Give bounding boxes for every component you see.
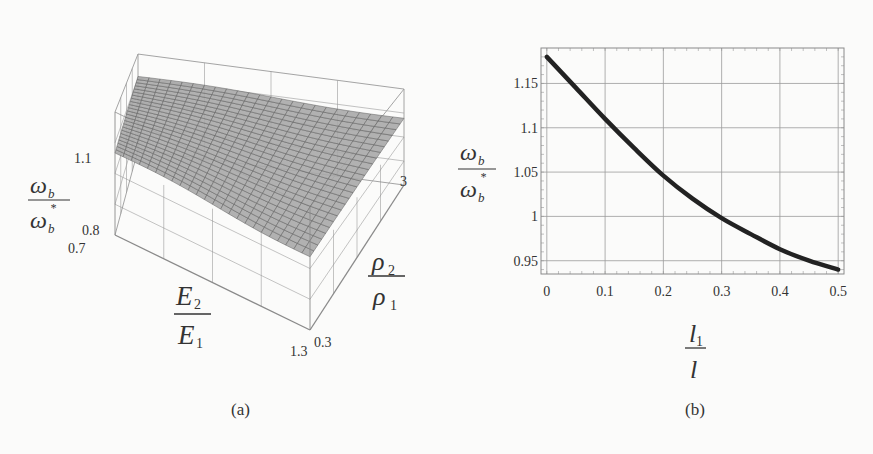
z-label-numerator-sub: b — [48, 186, 55, 201]
z-label-numerator: ω — [30, 172, 47, 198]
x-tick-label: 0.4 — [771, 284, 789, 299]
y-tick-label: 1 — [531, 209, 538, 224]
plot-frame — [541, 48, 844, 274]
y-label-denominator: ρ — [372, 282, 385, 311]
y-label-denominator-sub: 1 — [390, 298, 397, 313]
z-label-denominator-sup: * — [50, 201, 56, 215]
caption-a: (a) — [231, 400, 250, 420]
y-tick-label: 1.1 — [521, 121, 539, 136]
x-tick-low: 0.7 — [68, 241, 86, 256]
z-label-denominator: ω — [30, 207, 47, 233]
caption-b: (b) — [685, 400, 705, 420]
y-label-numerator: ρ — [371, 247, 384, 276]
x-tick-label: 0.2 — [655, 284, 673, 299]
y-tick-low: 0.3 — [314, 335, 332, 350]
panel-b-line-chart: 00.10.20.30.40.50.9511.051.11.15 ω b * ω… — [440, 0, 873, 454]
x-tick-label: 0.3 — [713, 284, 731, 299]
data-curve — [547, 57, 838, 270]
y-label-denominator-sub: b — [478, 190, 485, 205]
x-label-denominator: l — [690, 355, 697, 384]
x-axis-label: l 1 l — [685, 319, 706, 384]
y-label-numerator-sub: b — [478, 153, 485, 168]
z-label-denominator-sub: b — [48, 221, 55, 236]
y-label-denominator: ω — [460, 176, 477, 202]
y-label-denominator-sup: * — [480, 170, 486, 184]
y-axis-label: ω b * ω b — [458, 139, 496, 205]
x-axis-label: E 2 E 1 — [174, 281, 211, 351]
x-label-numerator-sub: 1 — [696, 334, 703, 349]
x-label-numerator-sub: 2 — [194, 297, 201, 312]
z-axis-label: ω b * ω b — [28, 172, 70, 236]
line-plot-svg: 00.10.20.30.40.50.9511.051.11.15 ω b * ω… — [440, 0, 873, 454]
x-label-numerator: E — [175, 281, 193, 311]
grid-lines — [541, 48, 844, 274]
x-tick-label: 0.5 — [829, 284, 847, 299]
y-tick-label: 0.95 — [514, 254, 539, 269]
x-tick-label: 0.1 — [596, 284, 614, 299]
x-label-denominator: E — [177, 320, 195, 350]
y-label-numerator: ω — [460, 139, 477, 165]
panel-a-3d-surface: 1.1 0.8 0.7 1.3 0.3 3 ω b * ω b E 2 E 1 … — [0, 0, 440, 454]
x-tick-label: 0 — [543, 284, 550, 299]
y-axis-label: ρ 2 ρ 1 — [368, 247, 405, 313]
y-tick-label: 1.15 — [514, 76, 539, 91]
z-tick-bottom: 0.8 — [82, 223, 100, 238]
y-tick-label: 1.05 — [514, 165, 539, 180]
y-tick-high: 3 — [400, 174, 407, 189]
x-label-denominator-sub: 1 — [196, 336, 203, 351]
x-tick-high: 1.3 — [290, 344, 308, 359]
mesh-surface — [115, 76, 404, 256]
z-tick-top: 1.1 — [74, 151, 92, 166]
surface-plot-svg: 1.1 0.8 0.7 1.3 0.3 3 ω b * ω b E 2 E 1 … — [0, 0, 440, 454]
